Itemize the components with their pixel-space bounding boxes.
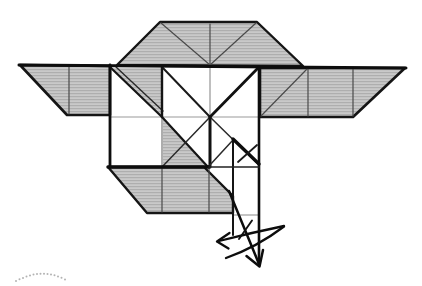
dot [47, 273, 49, 275]
dot [64, 279, 66, 281]
dot [50, 274, 52, 276]
dot [26, 276, 28, 278]
dot [43, 273, 45, 275]
tail-flap-bold-crease [233, 139, 259, 164]
dot [36, 273, 38, 275]
dot [40, 273, 42, 275]
dot [54, 274, 56, 276]
origami-diagram [0, 0, 422, 286]
tail-flap-peak-crease [209, 140, 233, 166]
x-diagonal-nw [162, 67, 210, 117]
dot [61, 277, 63, 279]
dot [19, 278, 21, 280]
x-diagonal-ne [210, 67, 259, 117]
dot [33, 274, 35, 276]
corner-dotted-arc [15, 273, 66, 282]
dot [15, 280, 17, 282]
origami-diagram-canvas [0, 0, 422, 286]
right-wing-fill [260, 68, 405, 117]
dot [29, 274, 31, 276]
left-wing-fill [20, 65, 110, 115]
bottom-trapezoid-fill [108, 167, 233, 213]
dot [57, 275, 59, 277]
dot [22, 277, 24, 279]
